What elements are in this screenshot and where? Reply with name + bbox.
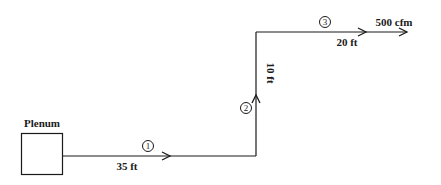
outlet-flow-label: 500 cfm	[376, 16, 413, 28]
section-1-number: 1	[146, 141, 151, 151]
section-3-length: 20 ft	[336, 36, 357, 48]
plenum-label: Plenum	[24, 117, 60, 129]
section-1-length: 35 ft	[116, 160, 137, 172]
duct-diagram: Plenum 1 35 ft 2 10 ft 3 20 ft 500 cfm	[0, 0, 441, 185]
section-3-number: 3	[323, 17, 328, 27]
section-2-length: 10 ft	[265, 62, 277, 83]
section-2-number: 2	[244, 103, 249, 113]
plenum-box	[22, 134, 63, 175]
